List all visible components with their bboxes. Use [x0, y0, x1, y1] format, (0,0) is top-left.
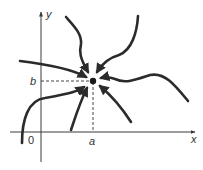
trajectory-top-left [66, 17, 88, 72]
phase-diagram: y x 0 a b [0, 0, 203, 170]
origin-label: 0 [28, 134, 34, 146]
point-y-label: b [30, 75, 36, 87]
x-axis-label: x [190, 133, 197, 145]
trajectory-lower-middle [71, 88, 87, 130]
equilibrium-point [90, 78, 96, 84]
point-x-label: a [89, 135, 95, 147]
trajectory-top-right [97, 16, 138, 72]
trajectory-lower-right [100, 86, 131, 122]
trajectory-right [101, 75, 188, 101]
y-axis-label: y [45, 8, 53, 20]
